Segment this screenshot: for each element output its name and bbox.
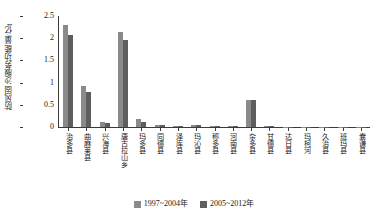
x-tick-mark (215, 128, 216, 131)
bar-group (352, 16, 370, 127)
x-axis-label: 玛柯河 (302, 133, 309, 154)
x-axis-label: 曲麻莱县 (83, 133, 90, 161)
y-tick-mark (20, 127, 23, 128)
legend-swatch-icon-series-1 (134, 201, 141, 208)
x-tick-mark (306, 128, 307, 131)
y-tick-label: 1.5 (44, 56, 58, 64)
bar-group (297, 16, 315, 127)
x-axis-label: 班玛县 (339, 133, 346, 154)
bar-group (132, 16, 150, 127)
y-tick-mark (20, 83, 23, 84)
x-axis-label: 同德县 (156, 133, 163, 154)
legend-item-series-2: 2005~2012年 (200, 200, 254, 208)
bar (251, 100, 256, 127)
bar-group (150, 16, 168, 127)
bar-series-container (59, 16, 370, 127)
y-axis-title: 防风固沙服务功能量/亿t (2, 8, 16, 126)
x-tick-15 (333, 128, 351, 132)
x-label-cell: 囊谦县 (352, 133, 370, 195)
x-label-cell: 达日县 (279, 133, 297, 195)
bar-group (260, 16, 278, 127)
x-axis-label: 治多县 (65, 133, 72, 154)
x-tick-13 (297, 128, 315, 132)
y-tick-label: 2.5 (44, 12, 58, 20)
x-axis-label: 河南县 (229, 133, 236, 154)
x-tick-mark (251, 128, 252, 131)
x-tick-mark (86, 128, 87, 131)
x-tick-mark (233, 128, 234, 131)
x-axis-label: 久治县 (321, 133, 328, 154)
y-tick-label: 1 (50, 79, 58, 87)
bar (160, 125, 165, 127)
x-tick-mark (324, 128, 325, 131)
bar-group (315, 16, 333, 127)
x-label-cell: 班玛县 (333, 133, 351, 195)
x-tick-mark (160, 128, 161, 131)
y-tick-label: 0 (50, 123, 58, 131)
x-axis-label: 兴海县 (101, 133, 108, 154)
x-axis-label: 囊谦县 (357, 133, 364, 154)
x-label-cell: 杂多县 (242, 133, 260, 195)
bar-group (187, 16, 205, 127)
y-tick-mark (20, 105, 23, 106)
y-tick-mark (20, 16, 23, 17)
bar (233, 126, 238, 127)
x-tick-mark (68, 128, 69, 131)
bar-group (59, 16, 77, 127)
x-tick-mark (343, 128, 344, 131)
x-label-cell: 河南县 (224, 133, 242, 195)
x-tick-mark (288, 128, 289, 131)
x-tick-7 (187, 128, 205, 132)
x-tick-mark (269, 128, 270, 131)
x-tick-5 (150, 128, 168, 132)
x-tick-4 (132, 128, 150, 132)
y-tick-mark (20, 60, 23, 61)
bar (123, 40, 128, 127)
x-tick-mark (196, 128, 197, 131)
x-tick-mark (123, 128, 124, 131)
y-tick-mark (20, 38, 23, 39)
x-axis-label: 称多县 (211, 133, 218, 154)
x-axis-label: 甘德县 (266, 133, 273, 154)
x-tick-10 (242, 128, 260, 132)
x-tick-3 (114, 128, 132, 132)
x-label-cell: 玛柯河 (297, 133, 315, 195)
bar (269, 126, 274, 127)
x-label-cell: 曲麻莱县 (77, 133, 95, 195)
x-tick-mark (361, 128, 362, 131)
x-tick-9 (224, 128, 242, 132)
x-label-cell: 治多县 (59, 133, 77, 195)
x-axis-label: 泽库县 (174, 133, 181, 154)
x-axis-label: 玛沁县 (193, 133, 200, 154)
bar-group (242, 16, 260, 127)
legend-swatch-icon-series-2 (200, 201, 207, 208)
y-tick-label: 2 (50, 34, 58, 42)
x-tick-16 (352, 128, 370, 132)
legend-item-series-1: 1997~2004年 (134, 200, 188, 208)
bar (68, 35, 73, 127)
x-label-cell: 称多县 (205, 133, 223, 195)
bar (105, 123, 110, 127)
legend-label-series-1: 1997~2004年 (144, 200, 188, 208)
bar-group (114, 16, 132, 127)
plot-area: 00.511.522.5 (58, 16, 370, 128)
x-label-cell: 泽库县 (169, 133, 187, 195)
x-label-cell: 玛多县 (132, 133, 150, 195)
chart-figure: 防风固沙服务功能量/亿t 00.511.522.5 治多县曲麻莱县兴海县唐古拉山… (0, 0, 388, 223)
x-axis-label: 杂多县 (248, 133, 255, 154)
bar-group (205, 16, 223, 127)
x-tick-11 (260, 128, 278, 132)
legend-label-series-2: 2005~2012年 (210, 200, 254, 208)
x-label-cell: 玛沁县 (187, 133, 205, 195)
bar-group (77, 16, 95, 127)
bar (215, 126, 220, 127)
bar (178, 126, 183, 127)
x-tick-2 (96, 128, 114, 132)
chart-legend: 1997~2004年 2005~2012年 (0, 200, 388, 208)
x-tick-8 (205, 128, 223, 132)
bar-group (169, 16, 187, 127)
x-tick-0 (59, 128, 77, 132)
bar-group (279, 16, 297, 127)
x-tick-12 (279, 128, 297, 132)
x-label-cell: 甘德县 (260, 133, 278, 195)
